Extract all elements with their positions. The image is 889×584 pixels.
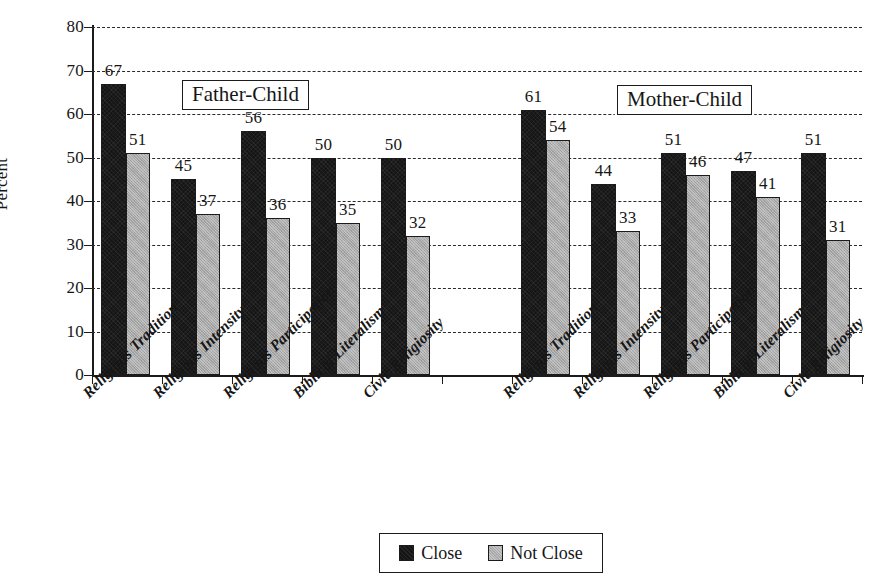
x-tick-mark (442, 375, 443, 384)
gridline (92, 27, 862, 28)
x-axis-line (92, 375, 864, 377)
bar-value-label: 61 (525, 87, 542, 107)
bar-close (101, 84, 125, 375)
y-tick-label: 50 (66, 148, 84, 168)
bar-value-label: 32 (409, 213, 426, 233)
bar-value-label: 35 (339, 200, 356, 220)
y-tick-mark (84, 27, 92, 28)
y-tick-label: 70 (66, 61, 84, 81)
legend-label-close: Close (421, 543, 462, 564)
bar-value-label: 50 (385, 135, 402, 155)
y-tick-label: 40 (66, 191, 84, 211)
bar-value-label: 51 (805, 130, 822, 150)
y-tick-mark (84, 114, 92, 115)
y-tick-label: 0 (75, 365, 84, 385)
y-tick-label: 80 (66, 17, 84, 37)
y-tick-label: 10 (66, 322, 84, 342)
y-tick-label: 20 (66, 278, 84, 298)
bar-value-label: 67 (105, 61, 122, 81)
panel-title-father-child: Father-Child (182, 80, 309, 110)
y-tick-mark (84, 71, 92, 72)
bar-value-label: 47 (735, 148, 752, 168)
y-axis-title: Percent (0, 4, 12, 364)
bar-value-label: 46 (689, 152, 706, 172)
bar-value-label: 31 (829, 217, 846, 237)
bar-close (381, 158, 405, 376)
y-tick-mark (84, 288, 92, 289)
legend-swatch-close-icon (399, 545, 414, 561)
bar-value-label: 51 (665, 130, 682, 150)
bar-value-label: 44 (595, 161, 612, 181)
bar-value-label: 50 (315, 135, 332, 155)
legend-entry-close: Close (399, 543, 462, 564)
bar-value-label: 36 (269, 195, 286, 215)
bar-value-label: 54 (549, 117, 566, 137)
bar-close (521, 110, 545, 375)
bar-close (801, 153, 825, 375)
y-tick-mark (84, 201, 92, 202)
bar-close (661, 153, 685, 375)
y-tick-label: 60 (66, 104, 84, 124)
bar-value-label: 51 (129, 130, 146, 150)
bar-value-label: 33 (619, 208, 636, 228)
bar-value-label: 41 (759, 174, 776, 194)
gridline (92, 71, 862, 72)
panel-title-mother-child: Mother-Child (617, 85, 752, 115)
bar-value-label: 56 (245, 108, 262, 128)
y-tick-mark (84, 332, 92, 333)
legend: Close Not Close (379, 533, 603, 573)
x-tick-mark (862, 375, 863, 384)
legend-entry-not-close: Not Close (488, 543, 583, 564)
bar-chart-figure: Percent 01020304050607080 67514537563650… (0, 0, 889, 584)
bar-close (311, 158, 335, 376)
bar-close (241, 131, 265, 375)
legend-label-not-close: Not Close (510, 543, 583, 564)
legend-swatch-not-close-icon (488, 545, 503, 561)
y-tick-mark (84, 245, 92, 246)
bar-value-label: 45 (175, 156, 192, 176)
y-tick-mark (84, 158, 92, 159)
y-tick-label: 30 (66, 235, 84, 255)
bar-value-label: 37 (199, 191, 216, 211)
